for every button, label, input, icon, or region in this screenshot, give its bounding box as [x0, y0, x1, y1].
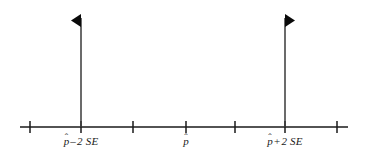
- upper-bound-label: ˆp+2 SE: [267, 136, 302, 147]
- p-hat-symbol: ˆp: [64, 136, 70, 147]
- arrow-left-icon: [71, 14, 81, 27]
- se-unit: SE: [290, 135, 303, 147]
- p-hat-symbol: ˆp: [267, 136, 273, 147]
- coefficient: 2: [281, 135, 287, 147]
- coefficient: 2: [77, 135, 83, 147]
- p-hat-symbol: ˆp: [183, 136, 189, 147]
- operator-sign: +: [273, 135, 281, 147]
- center-estimate-label: ˆp: [183, 136, 189, 147]
- arrow-right-icon: [285, 14, 295, 27]
- confidence-interval-figure: ˆp–2 SE ˆp ˆp+2 SE: [0, 0, 365, 160]
- lower-bound-label: ˆp–2 SE: [64, 136, 99, 147]
- se-unit: SE: [86, 135, 99, 147]
